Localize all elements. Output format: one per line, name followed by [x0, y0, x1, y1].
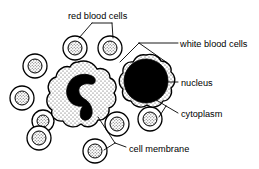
diagram-canvas: red blood cells white blood cells nucleu… — [0, 0, 259, 169]
leader-red-blood-cells — [79, 23, 92, 38]
red-blood-cell — [98, 36, 122, 60]
red-blood-cell — [10, 86, 34, 110]
white-blood-cell-right — [119, 54, 175, 107]
label-white-blood-cells: white blood cells — [179, 39, 248, 49]
label-nucleus: nucleus — [181, 78, 213, 88]
red-blood-cell — [23, 54, 47, 78]
red-blood-cell — [27, 126, 51, 150]
label-cytoplasm: cytoplasm — [181, 109, 223, 119]
leader-cytoplasm — [166, 106, 178, 113]
red-blood-cell — [83, 139, 107, 163]
label-cell-membrane: cell membrane — [129, 144, 189, 154]
white-blood-cell-left — [47, 61, 116, 127]
label-red-blood-cells: red blood cells — [68, 11, 128, 21]
blood-cells-diagram: red blood cells white blood cells nucleu… — [0, 0, 259, 169]
red-blood-cell — [138, 107, 162, 131]
nucleus-round — [124, 59, 168, 103]
leader-cell-membrane — [115, 143, 126, 147]
red-blood-cell — [63, 36, 87, 60]
